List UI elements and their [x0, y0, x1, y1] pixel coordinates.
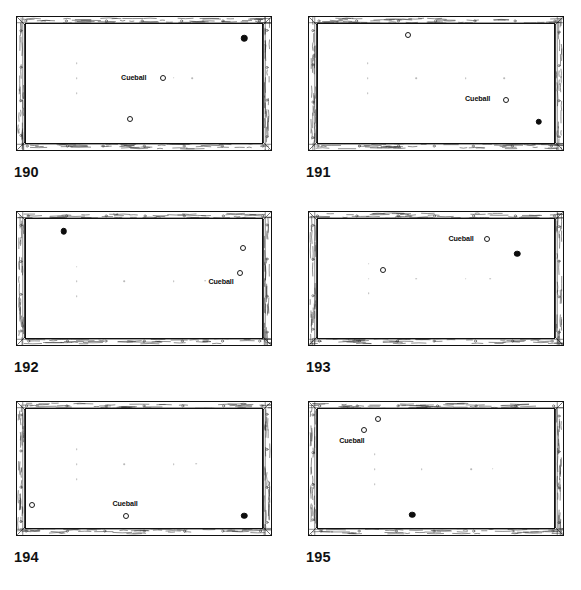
- object-ball-hollow: [29, 502, 35, 508]
- table-spot: [76, 296, 78, 298]
- table-cloth: Cueball: [317, 408, 555, 529]
- figure-number: 190: [14, 165, 39, 180]
- table-spot: [465, 278, 467, 280]
- table-spot: [205, 280, 207, 282]
- figure-panel-195: Cueball195: [290, 385, 581, 590]
- billiard-table-194: Cueball: [16, 401, 272, 536]
- figure-number: 193: [306, 360, 331, 375]
- object-ball-hollow: [380, 267, 386, 273]
- table-spot: [368, 278, 370, 280]
- table-spot: [192, 77, 194, 79]
- table-spot: [367, 92, 369, 94]
- object-ball-solid: [535, 118, 542, 125]
- table-spot: [367, 62, 369, 64]
- figure-grid: Cueball190 Cueball191 Cueball192 Cueball…: [0, 0, 581, 590]
- cueball-label: Cueball: [448, 236, 473, 243]
- billiard-table-190: Cueball: [16, 16, 272, 151]
- cueball-label: Cueball: [465, 95, 490, 102]
- object-ball-solid: [61, 228, 68, 235]
- cue-ball: [503, 97, 509, 103]
- table-spot: [76, 62, 78, 64]
- table-cloth: Cueball: [25, 408, 263, 529]
- table-spot: [465, 77, 467, 79]
- table-spot: [76, 478, 78, 480]
- object-ball-hollow: [240, 245, 246, 251]
- object-ball-hollow: [375, 416, 381, 422]
- table-spot: [173, 281, 175, 283]
- table-spot: [415, 278, 417, 280]
- cue-ball: [237, 270, 243, 276]
- figure-panel-191: Cueball191: [290, 0, 581, 195]
- figure-number: 195: [306, 550, 331, 565]
- cue-ball: [361, 427, 367, 433]
- table-cloth: Cueball: [317, 23, 555, 144]
- figure-number: 192: [14, 360, 39, 375]
- figure-panel-193: Cueball193: [290, 195, 581, 385]
- cue-ball: [484, 236, 490, 242]
- table-spot: [504, 77, 506, 79]
- object-ball-hollow: [405, 32, 411, 38]
- table-spot: [374, 468, 376, 470]
- table-spot: [76, 77, 78, 79]
- table-spot: [374, 453, 376, 455]
- cueball-label: Cueball: [339, 438, 364, 445]
- cueball-label: Cueball: [112, 501, 137, 508]
- table-spot: [368, 293, 370, 295]
- figure-panel-192: Cueball192: [0, 195, 290, 385]
- table-spot: [367, 77, 369, 79]
- object-ball-solid: [241, 35, 248, 42]
- cueball-label: Cueball: [208, 278, 233, 285]
- table-spot: [173, 77, 175, 79]
- table-spot: [123, 464, 125, 466]
- cueball-label: Cueball: [121, 74, 146, 81]
- table-cloth: Cueball: [317, 218, 555, 339]
- table-spot: [489, 278, 491, 280]
- figure-number: 191: [306, 165, 331, 180]
- table-spot: [374, 483, 376, 485]
- table-cloth: Cueball: [25, 23, 263, 144]
- cue-ball: [160, 75, 166, 81]
- object-ball-hollow: [127, 116, 133, 122]
- table-spot: [123, 281, 125, 283]
- table-spot: [368, 263, 370, 265]
- table-cloth: Cueball: [25, 218, 263, 339]
- table-spot: [471, 468, 473, 470]
- table-spot: [421, 468, 423, 470]
- figure-panel-194: Cueball194: [0, 385, 290, 590]
- table-spot: [76, 464, 78, 466]
- billiard-table-192: Cueball: [16, 211, 272, 346]
- table-spot: [492, 468, 494, 470]
- table-spot: [76, 281, 78, 283]
- table-spot: [76, 449, 78, 451]
- billiard-table-193: Cueball: [308, 211, 564, 346]
- billiard-table-191: Cueball: [308, 16, 564, 151]
- table-spot: [195, 463, 197, 465]
- table-spot: [173, 464, 175, 466]
- table-spot: [76, 92, 78, 94]
- object-ball-solid: [409, 512, 416, 519]
- object-ball-solid: [514, 250, 521, 257]
- billiard-table-195: Cueball: [308, 401, 564, 536]
- figure-panel-190: Cueball190: [0, 0, 290, 195]
- object-ball-solid: [241, 512, 248, 519]
- table-spot: [76, 266, 78, 268]
- table-spot: [415, 77, 417, 79]
- cue-ball: [123, 513, 129, 519]
- figure-number: 194: [14, 550, 39, 565]
